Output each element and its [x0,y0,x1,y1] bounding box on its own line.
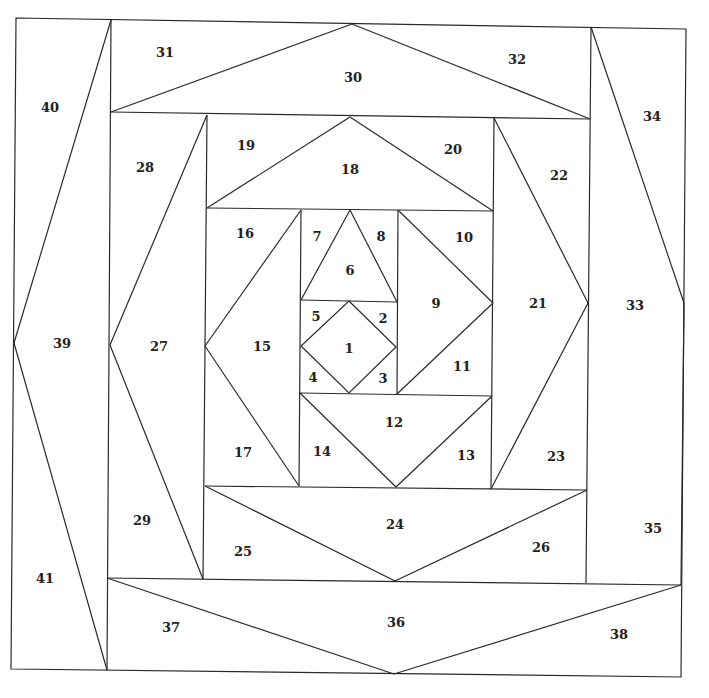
piece-label-12: 12 [385,416,403,429]
piece-label-37: 37 [162,621,180,634]
seam-r1-right [397,210,398,394]
seam-14-12 [300,393,396,487]
piece-label-41: 41 [36,572,54,585]
piece-label-31: 31 [156,46,174,59]
piece-label-13: 13 [457,449,475,462]
piece-label-6: 6 [345,264,354,277]
seam-21-23 [491,303,588,489]
piece-label-3: 3 [378,372,387,385]
seam-27-29 [110,345,203,579]
quilt-pattern-diagram: 1234567891011121314151617181920212223242… [0,0,709,698]
piece-label-29: 29 [133,514,151,527]
seam-40-39 [14,20,111,343]
piece-label-32: 32 [508,53,526,66]
piece-label-26: 26 [532,541,550,554]
seam-18-20 [350,117,493,211]
piece-label-1: 1 [344,342,353,355]
piece-label-25: 25 [234,545,252,558]
piece-label-20: 20 [444,143,462,156]
piece-label-35: 35 [644,522,662,535]
seam-28-27 [110,115,207,345]
piece-label-5: 5 [311,310,320,323]
piece-label-23: 23 [547,450,565,463]
piece-label-10: 10 [455,231,473,244]
seam-37-36 [107,578,394,674]
piece-label-2: 2 [378,312,387,325]
piece-label-11: 11 [453,360,471,373]
seam-6-8 [350,210,397,302]
seam-31-30 [111,24,352,112]
seam-30-32 [352,24,590,119]
piece-label-22: 22 [550,169,568,182]
piece-label-33: 33 [626,299,644,312]
piece-label-7: 7 [312,230,321,243]
piece-label-28: 28 [136,161,154,174]
seam-9-11 [397,303,493,394]
piece-label-38: 38 [610,628,628,641]
seam-10-9 [398,210,493,303]
piece-label-34: 34 [643,110,661,123]
seam-7-6 [301,210,350,300]
piece-label-24: 24 [386,518,404,531]
pattern-lines [0,0,709,698]
piece-label-27: 27 [150,340,168,353]
piece-label-17: 17 [234,446,252,459]
piece-label-16: 16 [236,227,254,240]
piece-label-18: 18 [341,163,359,176]
piece-label-4: 4 [308,371,317,384]
seam-15-17 [205,346,299,486]
piece-label-19: 19 [237,139,255,152]
seam-34-33 [591,27,684,303]
seam-36-38 [394,585,681,674]
piece-label-14: 14 [313,445,331,458]
seam-r2-left [299,210,301,486]
seam-22-21 [494,118,588,303]
seam-r1-bottom [300,393,492,396]
seam-12-13 [396,396,492,487]
seam-25-24 [205,486,395,581]
seam-19-18 [207,117,350,208]
piece-label-30: 30 [344,71,362,84]
seam-24-26 [395,490,587,581]
piece-label-36: 36 [387,616,405,629]
piece-label-40: 40 [41,101,59,114]
seam-39-41 [14,343,107,670]
piece-label-39: 39 [53,337,71,350]
seam-bottom-row [107,578,681,585]
piece-label-21: 21 [529,297,547,310]
piece-label-15: 15 [253,340,271,353]
piece-label-9: 9 [431,297,440,310]
piece-label-8: 8 [376,230,385,243]
